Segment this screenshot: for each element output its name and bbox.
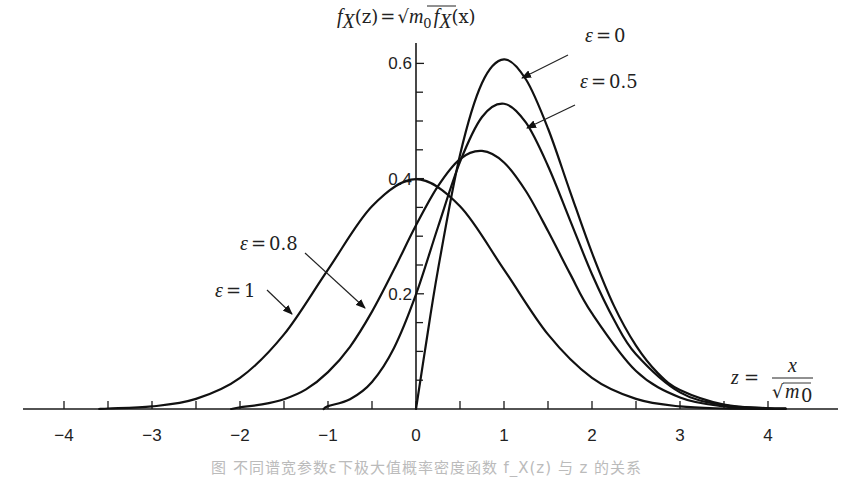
svg-text:0: 0 <box>801 385 812 406</box>
y-tick-label: 0.2 <box>388 285 412 304</box>
annotation-eps-1: ε=1 <box>215 279 292 314</box>
x-tick-label: 3 <box>675 426 684 445</box>
annotation-label: ε=0.8 <box>240 232 298 254</box>
curve-0-8 <box>231 151 785 409</box>
annotation-eps-0: ε=0 <box>522 24 625 78</box>
annotation-label: ε=0.5 <box>580 70 638 92</box>
svg-text:x: x <box>787 354 797 376</box>
arrow-icon <box>527 105 575 128</box>
svg-text:=: = <box>744 367 759 388</box>
svg-text:m: m <box>785 380 799 402</box>
x-tick-label: −4 <box>54 426 73 445</box>
x-tick-label: 0 <box>411 426 420 445</box>
x-tick-label: 2 <box>587 426 596 445</box>
density-curves <box>99 59 785 409</box>
x-axis-label: z = x √ m 0 <box>730 354 813 406</box>
curve-annotations: ε=0ε=0.5ε=0.8ε=1 <box>215 24 638 314</box>
x-tick-label: −3 <box>142 426 161 445</box>
annotation-label: ε=0 <box>585 24 625 46</box>
x-tick-label: −2 <box>230 426 249 445</box>
x-tick-label: −1 <box>318 426 337 445</box>
arrow-icon <box>305 253 365 308</box>
chart-title: fX(z)=√m0fX(x) <box>337 5 476 32</box>
svg-text:z: z <box>730 366 739 388</box>
y-tick-label: 0.6 <box>388 54 412 73</box>
x-ticks: −4−3−2−101234 <box>54 401 772 445</box>
curve-0 <box>416 59 786 409</box>
y-ticks: 0.20.40.6 <box>388 54 424 380</box>
arrow-icon <box>267 290 292 314</box>
svg-text:√: √ <box>772 381 784 402</box>
x-tick-label: 4 <box>763 426 772 445</box>
figure-caption: 图 不同谱宽参数ε下极大值概率密度函数 f_X(z) 与 z 的关系 <box>0 456 853 477</box>
x-tick-label: 1 <box>499 426 508 445</box>
annotation-label: ε=1 <box>215 279 255 301</box>
arrow-icon <box>522 55 568 78</box>
